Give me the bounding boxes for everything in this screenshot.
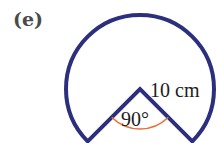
- angle-label: 90°: [121, 108, 149, 130]
- major-sector-diagram: 10 cm 90°: [0, 0, 218, 143]
- radius-label: 10 cm: [150, 79, 200, 101]
